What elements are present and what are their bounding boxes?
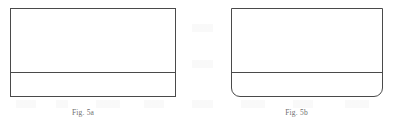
figure-right: Fig. 5b (200, 0, 401, 119)
figure-left: Fig. 5a (0, 0, 200, 119)
rectangular-box-rounded-bottom-corners (231, 8, 383, 97)
rectangular-box-square-corners (10, 8, 176, 97)
figure-left-caption: Fig. 5a (0, 108, 183, 117)
figure-pair: Fig. 5a Fig. 5b (0, 0, 401, 119)
figure-right-caption: Fig. 5b (196, 108, 397, 117)
bottom-divider-line (232, 72, 382, 73)
bottom-divider-line (11, 72, 175, 73)
